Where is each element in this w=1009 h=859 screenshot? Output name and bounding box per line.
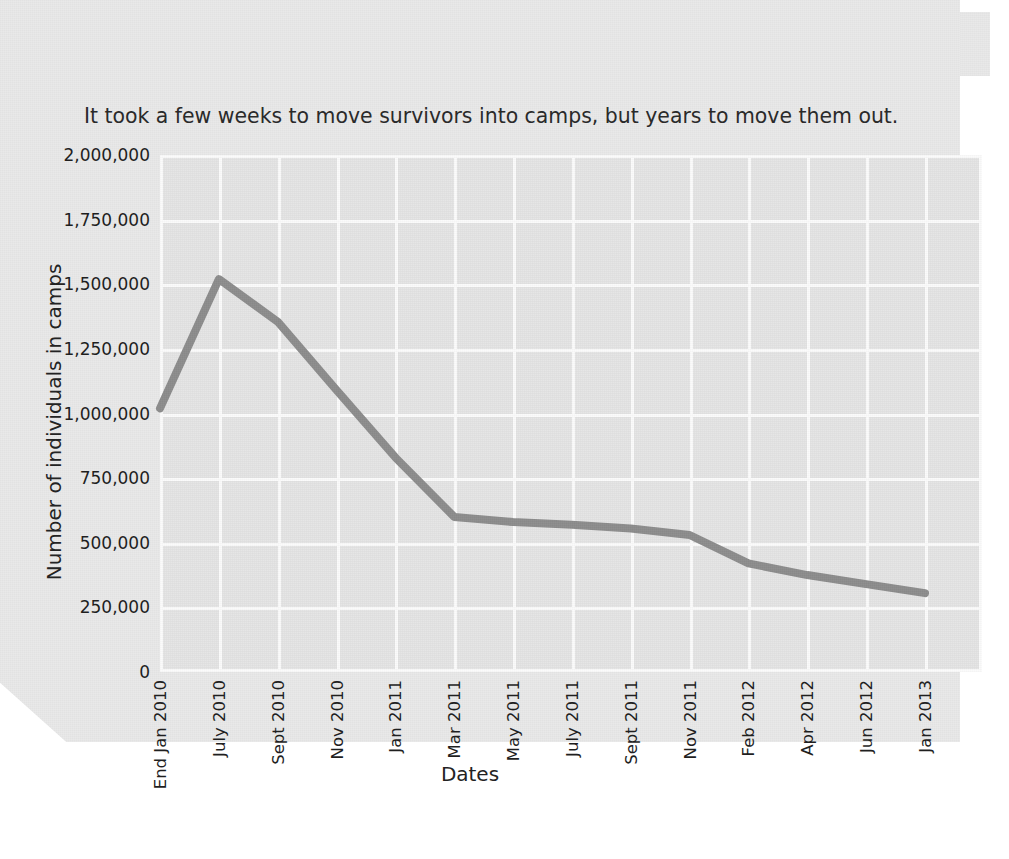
x-axis-tick-label: Mar 2011	[445, 680, 464, 758]
y-axis-tick-label: 2,000,000	[20, 145, 150, 165]
x-axis-tick-label: End Jan 2010	[151, 680, 170, 789]
y-axis-tick-labels: 0250,000500,000750,0001,000,0001,250,000…	[12, 155, 150, 672]
x-axis-tick-label: Jan 2011	[386, 680, 405, 753]
x-axis-tick-label: July 2010	[210, 680, 229, 757]
y-axis-tick-label: 1,750,000	[20, 210, 150, 230]
chart-page: TIMELINE: TENT CITIES It took a few week…	[0, 0, 1009, 859]
y-axis-tick-label: 250,000	[20, 597, 150, 617]
y-axis-tick-label: 1,500,000	[20, 274, 150, 294]
x-axis-tick-label: Jun 2012	[857, 680, 876, 753]
x-axis-tick-label: Feb 2012	[739, 680, 758, 756]
x-axis-tick-label: Nov 2011	[681, 680, 700, 759]
series-polyline	[160, 279, 925, 593]
x-axis-tick-label: July 2011	[563, 680, 582, 757]
y-axis-tick-label: 1,000,000	[20, 404, 150, 424]
x-axis-tick-label: Sept 2011	[622, 680, 641, 765]
x-axis-tick-label: May 2011	[504, 680, 523, 761]
x-axis-tick-label: Apr 2012	[798, 680, 817, 756]
y-axis-tick-label: 0	[20, 662, 150, 682]
x-axis-title: Dates	[360, 762, 580, 786]
y-axis-tick-label: 1,250,000	[20, 339, 150, 359]
plot-area	[160, 155, 982, 672]
x-axis-tick-label: Nov 2010	[328, 680, 347, 759]
chart-subtitle: It took a few weeks to move survivors in…	[84, 103, 939, 128]
y-axis-tick-label: 500,000	[20, 533, 150, 553]
x-axis-tick-label: Sept 2010	[269, 680, 288, 765]
x-axis-tick-label: Jan 2013	[916, 680, 935, 753]
y-axis-tick-label: 750,000	[20, 468, 150, 488]
series-line-chart	[160, 155, 982, 672]
